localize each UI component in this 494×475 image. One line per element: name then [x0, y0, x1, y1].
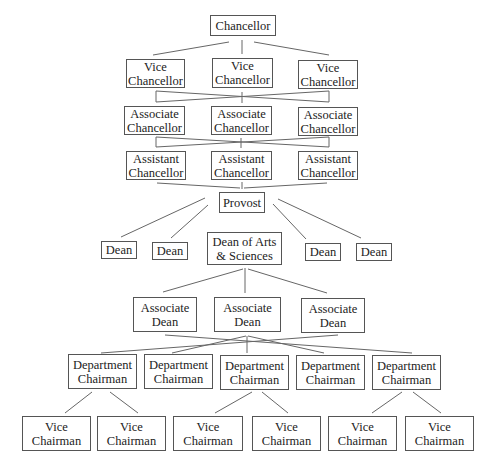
- connector-line: [110, 392, 138, 413]
- node-as2: Assistant Chancellor: [211, 151, 272, 180]
- node-dean4: Dean: [356, 243, 392, 261]
- node-ad2: Associate Dean: [214, 297, 281, 332]
- node-dc1: Department Chairman: [68, 354, 137, 389]
- node-ac1: Associate Chancellor: [124, 106, 185, 135]
- connector-line: [101, 335, 338, 353]
- connector-line: [278, 199, 361, 238]
- node-chancellor: Chancellor: [210, 15, 276, 36]
- node-provost: Provost: [219, 192, 265, 213]
- connector-line: [65, 392, 92, 413]
- connector-line: [163, 269, 243, 292]
- node-vch4: Vice Chairman: [252, 416, 321, 451]
- node-deanarts: Dean of Arts & Sciences: [207, 232, 282, 265]
- connector-line: [254, 42, 329, 55]
- node-ac2: Associate Chancellor: [211, 106, 272, 135]
- node-dean2: Dean: [152, 242, 188, 260]
- node-vc2: Vice Chancellor: [212, 58, 273, 88]
- node-vch1: Vice Chairman: [22, 416, 91, 451]
- node-dc4: Department Chairman: [296, 355, 365, 390]
- node-dc5: Department Chairman: [372, 355, 441, 390]
- node-vc3: Vice Chancellor: [298, 60, 358, 89]
- node-dean1: Dean: [101, 241, 137, 259]
- connector-line: [262, 392, 288, 413]
- connector-line: [372, 392, 402, 413]
- node-vch3: Vice Chairman: [173, 416, 243, 451]
- connector-line: [248, 269, 327, 293]
- node-vch2: Vice Chairman: [97, 416, 166, 451]
- connector-line: [165, 335, 412, 353]
- connector-line: [121, 198, 205, 237]
- node-vch5: Vice Chairman: [328, 416, 397, 451]
- connector-line: [215, 392, 252, 413]
- connector-line: [171, 205, 208, 238]
- node-ac3: Associate Chancellor: [298, 107, 358, 136]
- connector-line: [413, 392, 441, 413]
- node-as3: Assistant Chancellor: [298, 151, 358, 180]
- node-ad3: Associate Dean: [301, 298, 365, 333]
- connector-line: [244, 183, 327, 188]
- node-vch6: Vice Chairman: [405, 416, 474, 451]
- node-vc1: Vice Chancellor: [126, 59, 185, 88]
- node-dean3: Dean: [305, 243, 341, 261]
- node-ad1: Associate Dean: [133, 297, 197, 332]
- node-as1: Assistant Chancellor: [126, 151, 186, 180]
- node-dc2: Department Chairman: [144, 354, 213, 389]
- connector-line: [157, 183, 240, 188]
- connector-line: [153, 42, 229, 55]
- node-dc3: Department Chairman: [220, 355, 289, 390]
